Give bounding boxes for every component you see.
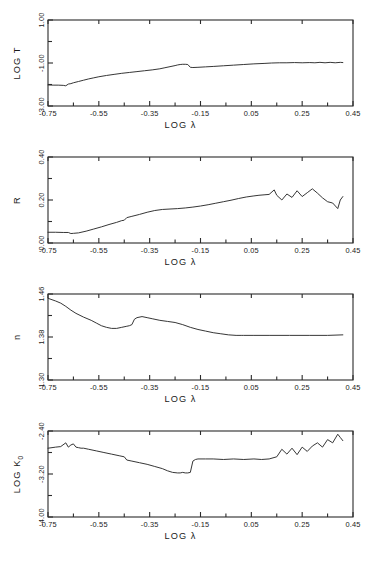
panel-log-t-curve	[48, 62, 343, 85]
panel-log-t: -3.00-1.001.00LOG T-0.75-0.55-0.35-0.150…	[0, 6, 380, 143]
panel-n-svg: 1.301.381.46n-0.75-0.55-0.35-0.150.050.2…	[0, 280, 380, 417]
panel-r-xlabel: LOG λ	[164, 257, 196, 267]
panel-n-curve	[48, 298, 343, 335]
panel-r-frame	[48, 157, 353, 243]
panel-n-xtick-label: -0.35	[141, 383, 159, 392]
panel-r-svg: 0.000.200.40R-0.75-0.55-0.35-0.150.050.2…	[0, 143, 380, 280]
panel-log-k0-xtick-label: -0.75	[39, 520, 57, 529]
panel-log-k0-ylabel: LOG K0	[12, 455, 24, 493]
panel-r-xtick-label: -0.75	[39, 246, 57, 255]
panel-log-k0: -4.00-3.20-2.40LOG K0-0.75-0.55-0.35-0.1…	[0, 417, 380, 554]
panel-r-xtick-label: -0.55	[90, 246, 108, 255]
panel-log-t-xtick-label: 0.45	[345, 109, 360, 118]
panel-r-xtick-label: -0.15	[192, 246, 210, 255]
panel-n-xtick-label: -0.75	[39, 383, 57, 392]
panel-r-xtick-label: 0.25	[295, 246, 310, 255]
panel-r-ytick-label: 0.20	[37, 192, 46, 207]
panel-r-xtick-label: -0.35	[141, 246, 159, 255]
panel-log-k0-xtick-label: 0.05	[244, 520, 259, 529]
panel-log-k0-xtick-label: -0.15	[192, 520, 210, 529]
panel-log-k0-xtick-label: -0.35	[141, 520, 159, 529]
panel-n-frame	[48, 294, 353, 380]
panel-n-ytick-label: 1.46	[37, 286, 46, 301]
panel-n: 1.301.381.46n-0.75-0.55-0.35-0.150.050.2…	[0, 280, 380, 417]
panel-n-xtick-label: 0.45	[345, 383, 360, 392]
panel-n-xtick-label: 0.05	[244, 383, 259, 392]
panel-log-t-xlabel: LOG λ	[164, 120, 196, 130]
panel-log-t-ytick-label: 1.00	[37, 12, 46, 27]
panel-n-ytick-label: 1.38	[37, 329, 46, 344]
panel-log-t-xtick-label: -0.55	[90, 109, 108, 118]
panel-log-t-xtick-label: 0.05	[244, 109, 259, 118]
panel-n-xlabel: LOG λ	[164, 394, 196, 404]
panel-log-t-xtick-label: -0.75	[39, 109, 57, 118]
panel-log-t-xtick-label: -0.15	[192, 109, 210, 118]
panel-log-t-ylabel: LOG T	[12, 47, 22, 80]
panel-log-k0-xtick-label: 0.25	[295, 520, 310, 529]
panel-log-k0-ytick-label: -2.40	[37, 422, 46, 440]
panel-n-xtick-label: 0.25	[295, 383, 310, 392]
panel-log-k0-frame	[48, 431, 353, 517]
panel-n-ylabel: n	[12, 334, 22, 340]
panel-r-xtick-label: 0.05	[244, 246, 259, 255]
panel-r-xtick-label: 0.45	[345, 246, 360, 255]
panel-log-t-svg: -3.00-1.001.00LOG T-0.75-0.55-0.35-0.150…	[0, 6, 380, 143]
panel-log-k0-ytick-label: -3.20	[37, 465, 46, 483]
panel-n-xtick-label: -0.55	[90, 383, 108, 392]
panel-log-k0-xtick-label: -0.55	[90, 520, 108, 529]
panel-log-k0-curve	[48, 434, 343, 473]
panel-log-k0-xtick-label: 0.45	[345, 520, 360, 529]
panel-log-k0-xlabel: LOG λ	[164, 531, 196, 541]
panel-n-xtick-label: -0.15	[192, 383, 210, 392]
panel-r-ytick-label: 0.40	[37, 149, 46, 164]
panel-log-t-xtick-label: -0.35	[141, 109, 159, 118]
panel-log-t-xtick-label: 0.25	[295, 109, 310, 118]
panel-r: 0.000.200.40R-0.75-0.55-0.35-0.150.050.2…	[0, 143, 380, 280]
multi-panel-figure: -3.00-1.001.00LOG T-0.75-0.55-0.35-0.150…	[0, 0, 380, 563]
panel-r-curve	[48, 189, 343, 234]
panel-log-k0-svg: -4.00-3.20-2.40LOG K0-0.75-0.55-0.35-0.1…	[0, 417, 380, 554]
panel-r-ylabel: R	[12, 196, 22, 204]
panel-log-t-ytick-label: -1.00	[37, 54, 46, 72]
